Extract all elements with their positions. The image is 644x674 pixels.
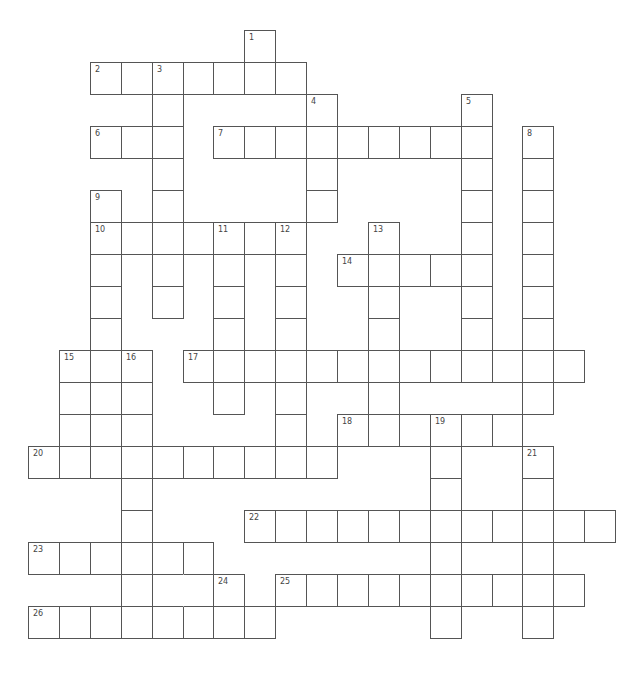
grid-cell[interactable] <box>522 350 554 383</box>
grid-cell[interactable] <box>275 414 307 447</box>
grid-cell[interactable] <box>244 606 276 639</box>
grid-cell[interactable] <box>368 414 400 447</box>
grid-cell[interactable] <box>399 510 431 543</box>
grid-cell[interactable] <box>121 62 153 95</box>
grid-cell[interactable] <box>522 254 554 287</box>
grid-cell[interactable] <box>213 606 245 639</box>
grid-cell[interactable] <box>59 542 91 575</box>
grid-cell[interactable] <box>399 126 431 159</box>
grid-cell[interactable] <box>368 382 400 415</box>
grid-cell[interactable] <box>306 158 338 191</box>
grid-cell[interactable]: 4 <box>306 94 338 127</box>
grid-cell[interactable] <box>430 606 462 639</box>
grid-cell[interactable] <box>461 510 493 543</box>
grid-cell[interactable] <box>275 254 307 287</box>
grid-cell[interactable] <box>522 542 554 575</box>
grid-cell[interactable] <box>306 350 338 383</box>
grid-cell[interactable]: 19 <box>430 414 462 447</box>
grid-cell[interactable] <box>368 126 400 159</box>
grid-cell[interactable]: 21 <box>522 446 554 479</box>
grid-cell[interactable] <box>337 350 369 383</box>
grid-cell[interactable]: 22 <box>244 510 276 543</box>
grid-cell[interactable] <box>430 446 462 479</box>
grid-cell[interactable]: 10 <box>90 222 122 255</box>
grid-cell[interactable]: 15 <box>59 350 91 383</box>
grid-cell[interactable]: 18 <box>337 414 369 447</box>
grid-cell[interactable] <box>275 62 307 95</box>
grid-cell[interactable] <box>121 446 153 479</box>
grid-cell[interactable] <box>399 414 431 447</box>
grid-cell[interactable] <box>430 126 462 159</box>
grid-cell[interactable] <box>430 478 462 511</box>
grid-cell[interactable] <box>152 542 184 575</box>
grid-cell[interactable] <box>399 350 431 383</box>
grid-cell[interactable] <box>399 574 431 607</box>
grid-cell[interactable] <box>59 414 91 447</box>
grid-cell[interactable] <box>306 126 338 159</box>
grid-cell[interactable]: 23 <box>28 542 60 575</box>
grid-cell[interactable] <box>121 478 153 511</box>
grid-cell[interactable] <box>368 318 400 351</box>
grid-cell[interactable] <box>430 542 462 575</box>
grid-cell[interactable]: 5 <box>461 94 493 127</box>
grid-cell[interactable] <box>492 510 523 543</box>
grid-cell[interactable]: 20 <box>28 446 60 479</box>
grid-cell[interactable] <box>121 222 153 255</box>
grid-cell[interactable] <box>121 126 153 159</box>
grid-cell[interactable] <box>461 350 493 383</box>
grid-cell[interactable] <box>183 574 214 607</box>
grid-cell[interactable] <box>244 62 276 95</box>
grid-cell[interactable]: 24 <box>213 574 245 607</box>
grid-cell[interactable] <box>121 606 153 639</box>
grid-cell[interactable] <box>368 350 400 383</box>
grid-cell[interactable] <box>152 222 184 255</box>
grid-cell[interactable] <box>461 126 493 159</box>
grid-cell[interactable] <box>183 606 214 639</box>
grid-cell[interactable] <box>244 350 276 383</box>
grid-cell[interactable] <box>492 414 523 447</box>
grid-cell[interactable]: 11 <box>213 222 245 255</box>
grid-cell[interactable] <box>213 350 245 383</box>
grid-cell[interactable] <box>59 606 91 639</box>
grid-cell[interactable] <box>152 254 184 287</box>
grid-cell[interactable]: 12 <box>275 222 307 255</box>
grid-cell[interactable]: 8 <box>522 126 554 159</box>
grid-cell[interactable] <box>152 126 184 159</box>
grid-cell[interactable] <box>152 574 184 607</box>
grid-cell[interactable] <box>275 446 307 479</box>
grid-cell[interactable] <box>90 350 122 383</box>
grid-cell[interactable] <box>553 350 585 383</box>
grid-cell[interactable] <box>368 510 400 543</box>
grid-cell[interactable] <box>121 382 153 415</box>
grid-cell[interactable] <box>90 446 122 479</box>
grid-cell[interactable] <box>244 126 276 159</box>
grid-cell[interactable] <box>213 286 245 319</box>
grid-cell[interactable] <box>213 318 245 351</box>
grid-cell[interactable] <box>337 510 369 543</box>
grid-cell[interactable] <box>90 542 122 575</box>
grid-cell[interactable] <box>90 254 122 287</box>
grid-cell[interactable] <box>430 510 462 543</box>
grid-cell[interactable] <box>522 158 554 191</box>
grid-cell[interactable] <box>461 222 493 255</box>
grid-cell[interactable]: 7 <box>213 126 245 159</box>
grid-cell[interactable] <box>430 350 462 383</box>
grid-cell[interactable]: 1 <box>244 30 276 63</box>
grid-cell[interactable] <box>368 254 400 287</box>
grid-cell[interactable] <box>337 574 369 607</box>
grid-cell[interactable] <box>275 318 307 351</box>
grid-cell[interactable] <box>430 254 462 287</box>
grid-cell[interactable] <box>522 190 554 223</box>
grid-cell[interactable]: 25 <box>275 574 307 607</box>
grid-cell[interactable]: 6 <box>90 126 122 159</box>
grid-cell[interactable] <box>59 446 91 479</box>
grid-cell[interactable] <box>90 606 122 639</box>
grid-cell[interactable] <box>275 382 307 415</box>
grid-cell[interactable] <box>492 574 523 607</box>
grid-cell[interactable] <box>584 510 616 543</box>
grid-cell[interactable]: 17 <box>183 350 214 383</box>
grid-cell[interactable] <box>183 222 214 255</box>
grid-cell[interactable] <box>213 382 245 415</box>
grid-cell[interactable] <box>213 446 245 479</box>
grid-cell[interactable] <box>553 510 585 543</box>
